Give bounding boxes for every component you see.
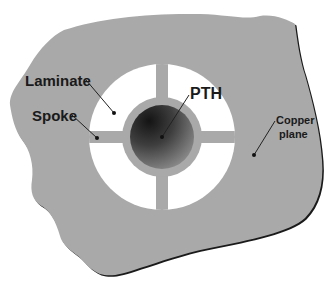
label-pth: PTH [190, 86, 222, 102]
label-laminate: Laminate [25, 73, 91, 88]
label-copper-plane-line2: plane [276, 127, 315, 141]
label-spoke: Spoke [32, 108, 77, 123]
diagram-graphic [0, 0, 332, 283]
label-copper-plane: Copper plane [276, 113, 315, 141]
label-copper-plane-line1: Copper [276, 113, 315, 127]
thermal-relief-diagram: Laminate Spoke PTH Copper plane [0, 0, 332, 283]
